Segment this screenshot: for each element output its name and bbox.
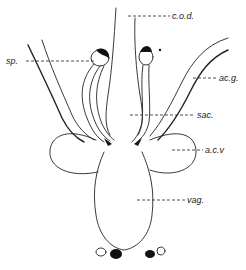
dark-pad-left	[110, 249, 122, 259]
label-spermatheca: sp.	[6, 56, 18, 66]
label-sac: sac.	[197, 110, 214, 120]
common-oviduct	[106, 8, 116, 135]
accessory-vesicle-left	[50, 134, 98, 174]
label-vagina: vag.	[187, 195, 204, 205]
accessory-gland-left	[28, 45, 84, 142]
dark-pad-right	[145, 250, 155, 258]
accessory-vesicle-right	[150, 134, 196, 173]
label-accessory-gland: ac.g.	[219, 73, 239, 83]
reproductive-system-diagram	[0, 0, 246, 270]
label-accessory-vesicle: a.c.v	[205, 145, 224, 155]
knob-left	[96, 248, 106, 256]
label-common-oviduct: c.o.d.	[172, 11, 194, 21]
vagina	[94, 152, 152, 250]
